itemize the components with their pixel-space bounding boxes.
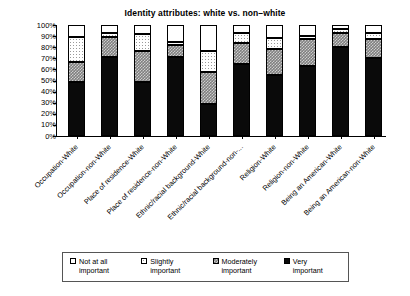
bar-8[interactable] bbox=[299, 25, 316, 136]
bar-segment-very[interactable] bbox=[266, 75, 283, 136]
bar-segment-moderately[interactable] bbox=[332, 33, 349, 47]
bar-segment-moderately[interactable] bbox=[101, 37, 118, 57]
y-tick-mark bbox=[53, 125, 56, 126]
bar-segment-very[interactable] bbox=[200, 104, 217, 136]
legend-item-very[interactable]: Very important bbox=[284, 257, 348, 275]
bar-segment-notatall[interactable] bbox=[233, 25, 250, 33]
bar-segment-slightly[interactable] bbox=[101, 33, 118, 37]
legend-item-slightly[interactable]: Slightly important bbox=[141, 257, 205, 275]
bar-segment-slightly[interactable] bbox=[167, 42, 184, 45]
bar-segment-slightly[interactable] bbox=[233, 33, 250, 43]
y-tick-mark bbox=[53, 114, 56, 115]
y-tick-label: 70% bbox=[20, 54, 56, 63]
bar-segment-very[interactable] bbox=[332, 47, 349, 136]
y-axis-line bbox=[56, 25, 57, 136]
y-tick-label: 40% bbox=[20, 87, 56, 96]
bar-segment-moderately[interactable] bbox=[167, 45, 184, 57]
bar-segment-notatall[interactable] bbox=[200, 25, 217, 51]
y-tick-label: 80% bbox=[20, 43, 56, 52]
bar-segment-very[interactable] bbox=[233, 64, 250, 136]
bar-segment-very[interactable] bbox=[167, 57, 184, 136]
bar-segment-moderately[interactable] bbox=[299, 39, 316, 66]
chart-figure: Identity attributes: white vs. non–white… bbox=[0, 0, 410, 296]
y-tick-mark bbox=[53, 81, 56, 82]
legend-label: Moderately important bbox=[222, 257, 258, 275]
y-tick-mark bbox=[53, 92, 56, 93]
bar-segment-slightly[interactable] bbox=[200, 51, 217, 72]
legend-label: Very important bbox=[293, 257, 323, 275]
x-tick-mark bbox=[341, 136, 342, 139]
bar-segment-very[interactable] bbox=[299, 66, 316, 136]
y-tick-mark bbox=[53, 58, 56, 59]
bar-10[interactable] bbox=[365, 25, 382, 136]
chart-title: Identity attributes: white vs. non–white bbox=[0, 8, 410, 18]
bar-segment-very[interactable] bbox=[68, 82, 85, 136]
bar-segment-slightly[interactable] bbox=[299, 36, 316, 39]
bar-7[interactable] bbox=[266, 25, 283, 136]
bar-segment-slightly[interactable] bbox=[68, 37, 85, 61]
x-tick-mark bbox=[242, 136, 243, 139]
x-tick-mark bbox=[374, 136, 375, 139]
plot-area: 0%10%20%30%40%50%60%70%80%90%100% bbox=[56, 25, 386, 136]
x-tick-mark bbox=[77, 136, 78, 139]
bar-5[interactable] bbox=[200, 25, 217, 136]
bar-9[interactable] bbox=[332, 25, 349, 136]
bar-2[interactable] bbox=[101, 25, 118, 136]
y-tick-mark bbox=[53, 69, 56, 70]
bar-segment-notatall[interactable] bbox=[266, 25, 283, 38]
y-tick-label: 30% bbox=[20, 98, 56, 107]
y-tick-label: 50% bbox=[20, 76, 56, 85]
bar-segment-moderately[interactable] bbox=[134, 51, 151, 82]
bar-segment-slightly[interactable] bbox=[332, 29, 349, 32]
x-tick-mark bbox=[176, 136, 177, 139]
bar-segment-notatall[interactable] bbox=[68, 25, 85, 37]
y-tick-label: 10% bbox=[20, 120, 56, 129]
y-tick-mark bbox=[53, 36, 56, 37]
bar-segment-slightly[interactable] bbox=[365, 33, 382, 40]
y-tick-mark bbox=[53, 136, 56, 137]
x-tick-mark bbox=[143, 136, 144, 139]
bar-segment-moderately[interactable] bbox=[365, 39, 382, 58]
legend-label: Not at all important bbox=[79, 257, 109, 275]
y-tick-label: 20% bbox=[20, 109, 56, 118]
y-tick-label: 60% bbox=[20, 65, 56, 74]
legend-item-moderately[interactable]: Moderately important bbox=[213, 257, 277, 275]
legend-swatch-very-icon bbox=[284, 258, 290, 264]
legend-swatch-notatall-icon bbox=[70, 258, 76, 264]
legend-swatch-slightly-icon bbox=[141, 258, 147, 264]
x-tick-mark bbox=[275, 136, 276, 139]
x-tick-mark bbox=[209, 136, 210, 139]
x-tick-mark bbox=[110, 136, 111, 139]
bar-segment-slightly[interactable] bbox=[134, 34, 151, 51]
y-tick-mark bbox=[53, 47, 56, 48]
bar-1[interactable] bbox=[68, 25, 85, 136]
bar-segment-very[interactable] bbox=[101, 57, 118, 136]
y-tick-mark bbox=[53, 103, 56, 104]
chart-legend: Not at all importantSlightly importantMo… bbox=[62, 252, 349, 282]
bar-segment-notatall[interactable] bbox=[332, 25, 349, 29]
y-tick-label: 90% bbox=[20, 32, 56, 41]
y-tick-label: 0% bbox=[20, 132, 56, 141]
y-tick-label: 100% bbox=[20, 21, 56, 30]
bar-segment-moderately[interactable] bbox=[68, 62, 85, 82]
bar-segment-moderately[interactable] bbox=[200, 72, 217, 104]
bar-4[interactable] bbox=[167, 25, 184, 136]
x-tick-mark bbox=[308, 136, 309, 139]
bar-segment-notatall[interactable] bbox=[134, 25, 151, 34]
bar-segment-very[interactable] bbox=[134, 82, 151, 136]
legend-item-notatall[interactable]: Not at all important bbox=[70, 257, 134, 275]
bar-segment-slightly[interactable] bbox=[266, 38, 283, 49]
legend-swatch-moderately-icon bbox=[213, 258, 219, 264]
bar-segment-notatall[interactable] bbox=[167, 25, 184, 42]
bar-segment-very[interactable] bbox=[365, 58, 382, 136]
legend-label: Slightly important bbox=[150, 257, 180, 275]
bar-6[interactable] bbox=[233, 25, 250, 136]
bar-segment-notatall[interactable] bbox=[101, 25, 118, 33]
bar-segment-notatall[interactable] bbox=[299, 25, 316, 36]
bar-segment-notatall[interactable] bbox=[365, 25, 382, 33]
bar-segment-moderately[interactable] bbox=[233, 43, 250, 64]
x-axis-line bbox=[56, 136, 386, 137]
bar-3[interactable] bbox=[134, 25, 151, 136]
bar-segment-moderately[interactable] bbox=[266, 49, 283, 75]
y-tick-mark bbox=[53, 25, 56, 26]
